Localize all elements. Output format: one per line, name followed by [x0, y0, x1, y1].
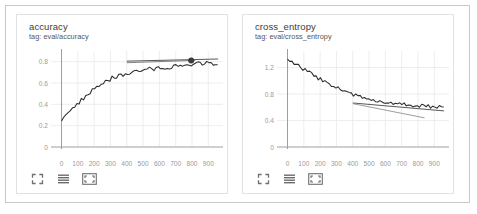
- svg-text:0.8: 0.8: [39, 58, 48, 65]
- svg-text:100: 100: [72, 160, 83, 167]
- svg-text:200: 200: [89, 160, 100, 167]
- expand-corners-icon[interactable]: [256, 172, 271, 185]
- expand-corners-icon[interactable]: [30, 172, 45, 185]
- plot-area-accuracy[interactable]: 00.20.40.60.8: [17, 45, 229, 161]
- svg-text:900: 900: [203, 160, 214, 167]
- svg-text:600: 600: [154, 160, 165, 167]
- fullscreen-box-icon[interactable]: [82, 172, 97, 185]
- svg-text:700: 700: [170, 160, 181, 167]
- chart-title: cross_entropy: [255, 21, 332, 32]
- svg-text:500: 500: [138, 160, 149, 167]
- series-group: [288, 59, 445, 118]
- chart-card-cross-entropy[interactable]: cross_entropy tag: eval/cross_entropy 00…: [242, 14, 454, 194]
- svg-text:800: 800: [187, 160, 198, 167]
- svg-text:400: 400: [121, 160, 132, 167]
- fullscreen-box-icon[interactable]: [308, 172, 323, 185]
- chart-tag: tag: eval/accuracy: [29, 32, 89, 42]
- chart-tag: tag: eval/cross_entropy: [255, 32, 332, 42]
- svg-text:600: 600: [380, 160, 391, 167]
- svg-text:1.2: 1.2: [265, 64, 274, 71]
- grid-lines: [277, 51, 449, 147]
- svg-text:700: 700: [396, 160, 407, 167]
- svg-text:0.2: 0.2: [39, 122, 48, 129]
- marker-group: [188, 57, 194, 63]
- plot-svg: 00.20.40.60.8: [17, 45, 229, 161]
- chart-toolbar-cross-entropy: [256, 172, 323, 185]
- grid-lines: [51, 51, 223, 147]
- chart-lines-icon[interactable]: [282, 172, 297, 185]
- chart-card-header: cross_entropy tag: eval/cross_entropy: [255, 21, 332, 42]
- svg-text:300: 300: [331, 160, 342, 167]
- chart-card-list: accuracy tag: eval/accuracy 00.20.40.60.…: [16, 14, 454, 194]
- axis-lines: [51, 49, 223, 149]
- svg-text:0.4: 0.4: [265, 117, 274, 124]
- svg-text:0: 0: [44, 144, 48, 151]
- svg-text:200: 200: [315, 160, 326, 167]
- svg-text:0: 0: [286, 160, 290, 167]
- svg-text:100: 100: [298, 160, 309, 167]
- svg-text:300: 300: [105, 160, 116, 167]
- x-axis-svg: 0100200300400500600700800900: [17, 157, 229, 169]
- axis-lines: [277, 49, 449, 149]
- plot-area-cross-entropy[interactable]: 00.40.81.2: [243, 45, 455, 161]
- svg-text:0: 0: [270, 144, 274, 151]
- svg-text:400: 400: [347, 160, 358, 167]
- svg-text:0.4: 0.4: [39, 101, 48, 108]
- svg-text:800: 800: [413, 160, 424, 167]
- y-tick-labels: 00.40.81.2: [265, 64, 275, 150]
- svg-text:500: 500: [364, 160, 375, 167]
- scalars-page: accuracy tag: eval/accuracy 00.20.40.60.…: [5, 5, 470, 203]
- chart-card-accuracy[interactable]: accuracy tag: eval/accuracy 00.20.40.60.…: [16, 14, 228, 194]
- chart-card-header: accuracy tag: eval/accuracy: [29, 21, 89, 42]
- chart-toolbar-accuracy: [30, 172, 97, 185]
- y-tick-labels: 00.20.40.60.8: [39, 58, 49, 150]
- svg-text:0: 0: [60, 160, 64, 167]
- svg-text:0.8: 0.8: [265, 91, 274, 98]
- x-axis-cross-entropy: 0100200300400500600700800900: [243, 157, 455, 169]
- x-axis-svg: 0100200300400500600700800900: [243, 157, 455, 169]
- x-axis-accuracy: 0100200300400500600700800900: [17, 157, 229, 169]
- svg-text:900: 900: [429, 160, 440, 167]
- series-group: [62, 59, 219, 121]
- plot-svg: 00.40.81.2: [243, 45, 455, 161]
- chart-lines-icon[interactable]: [56, 172, 71, 185]
- svg-text:0.6: 0.6: [39, 80, 48, 87]
- chart-title: accuracy: [29, 21, 89, 32]
